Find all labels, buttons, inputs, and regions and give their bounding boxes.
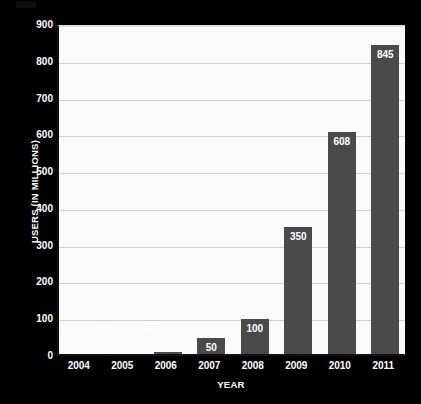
- y-axis-tick-label: 900: [0, 20, 53, 30]
- bar-group: 350: [277, 26, 321, 356]
- bar-value-label: 845: [377, 49, 394, 60]
- value-leader-line: [62, 335, 79, 353]
- bar-group: 100: [233, 26, 277, 356]
- bar-value-label: 608: [333, 136, 350, 147]
- y-axis-tick-label: 400: [0, 204, 53, 214]
- x-axis-line: [57, 354, 405, 356]
- bar-group: 5.5: [103, 26, 147, 356]
- y-axis-tick-label: 0: [0, 351, 53, 361]
- value-leader-line: [149, 332, 166, 350]
- x-axis-tick-label: 2011: [372, 360, 394, 372]
- bar-value-label: 350: [290, 231, 307, 242]
- bar[interactable]: [371, 45, 399, 356]
- x-axis-tick-label: 2006: [155, 360, 177, 372]
- y-axis-tick-label: 600: [0, 130, 53, 140]
- bar[interactable]: [284, 227, 312, 356]
- x-axis-tick-label: 2010: [329, 360, 351, 372]
- x-axis-title: YEAR: [57, 379, 405, 390]
- bar-value-label: 100: [246, 323, 263, 334]
- y-axis-tick-label: 800: [0, 57, 53, 67]
- x-axis-tick-label: 2009: [285, 360, 307, 372]
- bar-group: 608: [320, 26, 364, 356]
- x-axis-tick-label: 2007: [198, 360, 220, 372]
- bar-group: 845: [364, 26, 408, 356]
- bar-value-label: 12: [144, 322, 156, 333]
- x-axis-tick-label: 2004: [68, 360, 90, 372]
- x-axis-tick-label: 2005: [111, 360, 133, 372]
- bar-value-label: 1: [60, 325, 66, 336]
- y-axis-tick-label: 500: [0, 167, 53, 177]
- y-axis-tick-label: 100: [0, 314, 53, 324]
- bar[interactable]: [328, 132, 356, 356]
- bars-layer: 15.51250100350608845: [59, 26, 405, 356]
- plot-area: 15.51250100350608845: [57, 25, 405, 356]
- y-axis-tick-label: 200: [0, 277, 53, 287]
- value-leader-line: [106, 335, 123, 353]
- x-axis-tick-label: 2008: [242, 360, 264, 372]
- bar-value-label: 5.5: [99, 324, 114, 335]
- y-axis-tick-labels: 0100200300400500600700800900: [0, 0, 53, 404]
- bar-value-label: 50: [206, 342, 217, 353]
- x-axis-tick-labels: 20042005200620072008200920102011: [57, 360, 405, 376]
- y-axis-tick-label: 700: [0, 94, 53, 104]
- y-axis-tick-label: 300: [0, 241, 53, 251]
- bar-chart-figure: USERS (IN MILLIONS) 01002003004005006007…: [0, 0, 421, 404]
- bar-group: 12: [146, 26, 190, 356]
- bar-group: 1: [59, 26, 103, 356]
- bar-group: 50: [190, 26, 234, 356]
